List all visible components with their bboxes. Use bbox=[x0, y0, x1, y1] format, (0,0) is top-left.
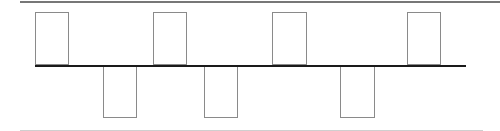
pulse-diagram bbox=[0, 0, 500, 131]
pulse-up-5 bbox=[272, 12, 307, 65]
pulse-down-4 bbox=[204, 65, 238, 118]
pulse-up-3 bbox=[153, 12, 187, 65]
pulse-up-7 bbox=[407, 12, 441, 65]
baseline-axis bbox=[35, 65, 466, 67]
bottom-border-line bbox=[20, 130, 483, 131]
pulse-down-6 bbox=[340, 65, 375, 118]
top-border-line bbox=[20, 1, 500, 3]
pulse-up-1 bbox=[35, 12, 69, 65]
pulse-down-2 bbox=[103, 65, 137, 118]
